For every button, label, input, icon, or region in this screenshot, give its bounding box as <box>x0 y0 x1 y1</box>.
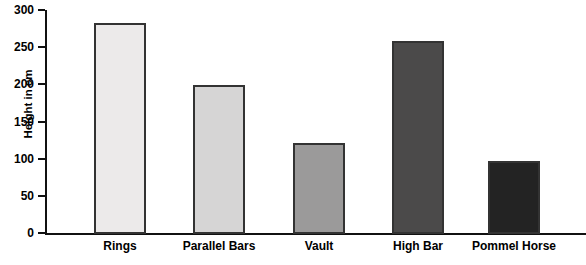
y-axis-tick <box>38 9 45 11</box>
y-axis-tick-label: 300 <box>0 4 34 16</box>
y-axis-tick-label: 150 <box>0 116 34 128</box>
y-axis-tick <box>38 46 45 48</box>
bar-parallel-bars <box>193 85 245 234</box>
y-axis-tick <box>38 195 45 197</box>
y-axis-tick-label: 100 <box>0 153 34 165</box>
y-axis-tick <box>38 158 45 160</box>
y-axis-tick-label: 250 <box>0 41 34 53</box>
y-axis-tick-label: 0 <box>0 227 34 239</box>
bar-high-bar <box>392 41 444 234</box>
y-axis-tick <box>38 232 45 234</box>
bar-pommel-horse <box>488 161 540 234</box>
bar-rings <box>94 23 146 234</box>
y-axis-tick-label: 200 <box>0 78 34 90</box>
y-axis-tick <box>38 121 45 123</box>
y-axis-tick <box>38 83 45 85</box>
bar-vault <box>293 143 345 234</box>
plot-area <box>45 10 586 234</box>
y-axis-tick-label: 50 <box>0 190 34 202</box>
y-axis-title: Height in cm <box>22 44 34 164</box>
x-axis-label-pommel-horse: Pommel Horse <box>454 240 574 253</box>
bar-chart: Height in cm 050100150200250300 RingsPar… <box>0 0 586 265</box>
